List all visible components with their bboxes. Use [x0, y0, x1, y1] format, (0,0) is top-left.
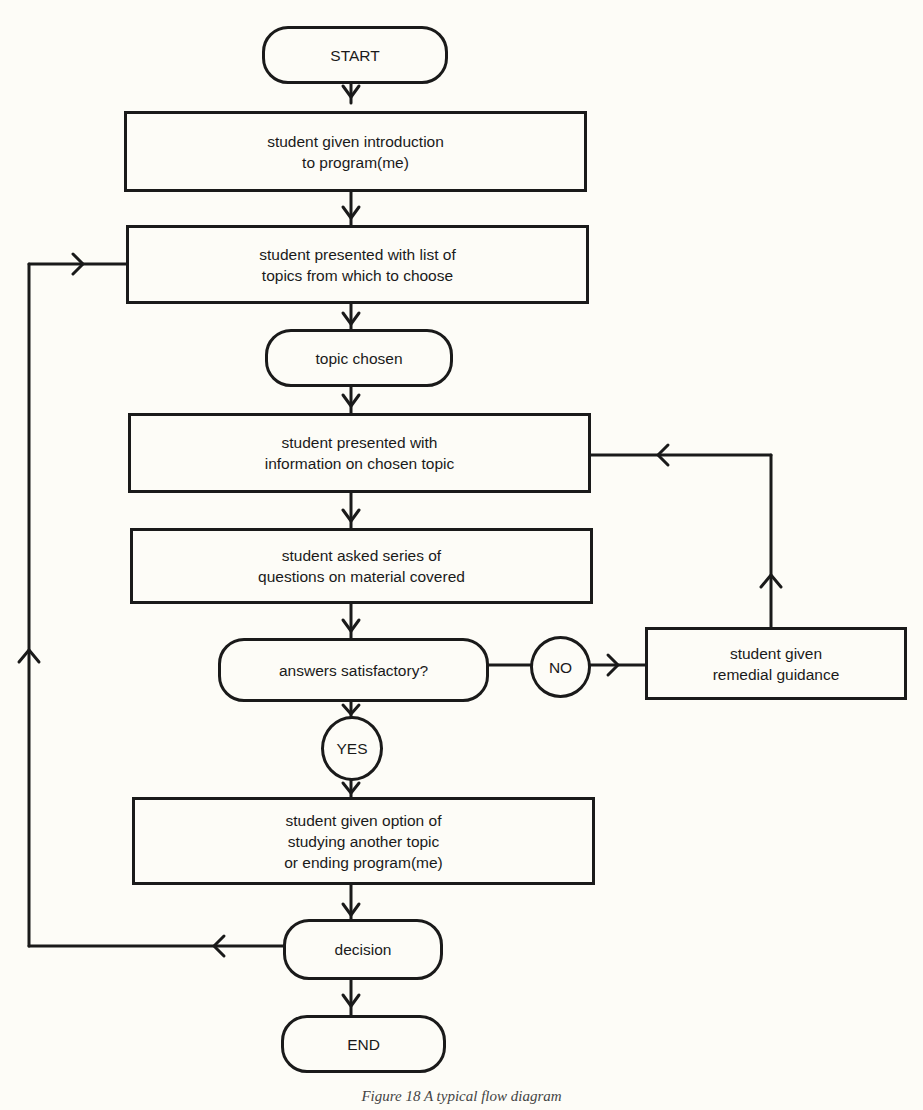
end-terminal: END: [281, 1015, 446, 1073]
info-process-box: student presented with information on ch…: [128, 413, 591, 493]
remedial-process-box: student given remedial guidance: [645, 627, 907, 700]
intro-process-box: student given introduction to program(me…: [124, 111, 587, 192]
no-label-circle: NO: [530, 636, 591, 698]
figure-caption: Figure 18 A typical flow diagram: [0, 1088, 923, 1105]
topic-chosen-terminal: topic chosen: [265, 329, 453, 387]
answers-satisfactory-decision: answers satisfactory?: [218, 638, 489, 702]
option-process-box: student given option of studying another…: [132, 797, 595, 885]
decision-terminal: decision: [283, 919, 443, 980]
topics-process-box: student presented with list of topics fr…: [126, 225, 589, 304]
questions-process-box: student asked series of questions on mat…: [130, 528, 593, 604]
start-terminal: START: [262, 26, 448, 84]
yes-label-circle: YES: [321, 716, 383, 781]
